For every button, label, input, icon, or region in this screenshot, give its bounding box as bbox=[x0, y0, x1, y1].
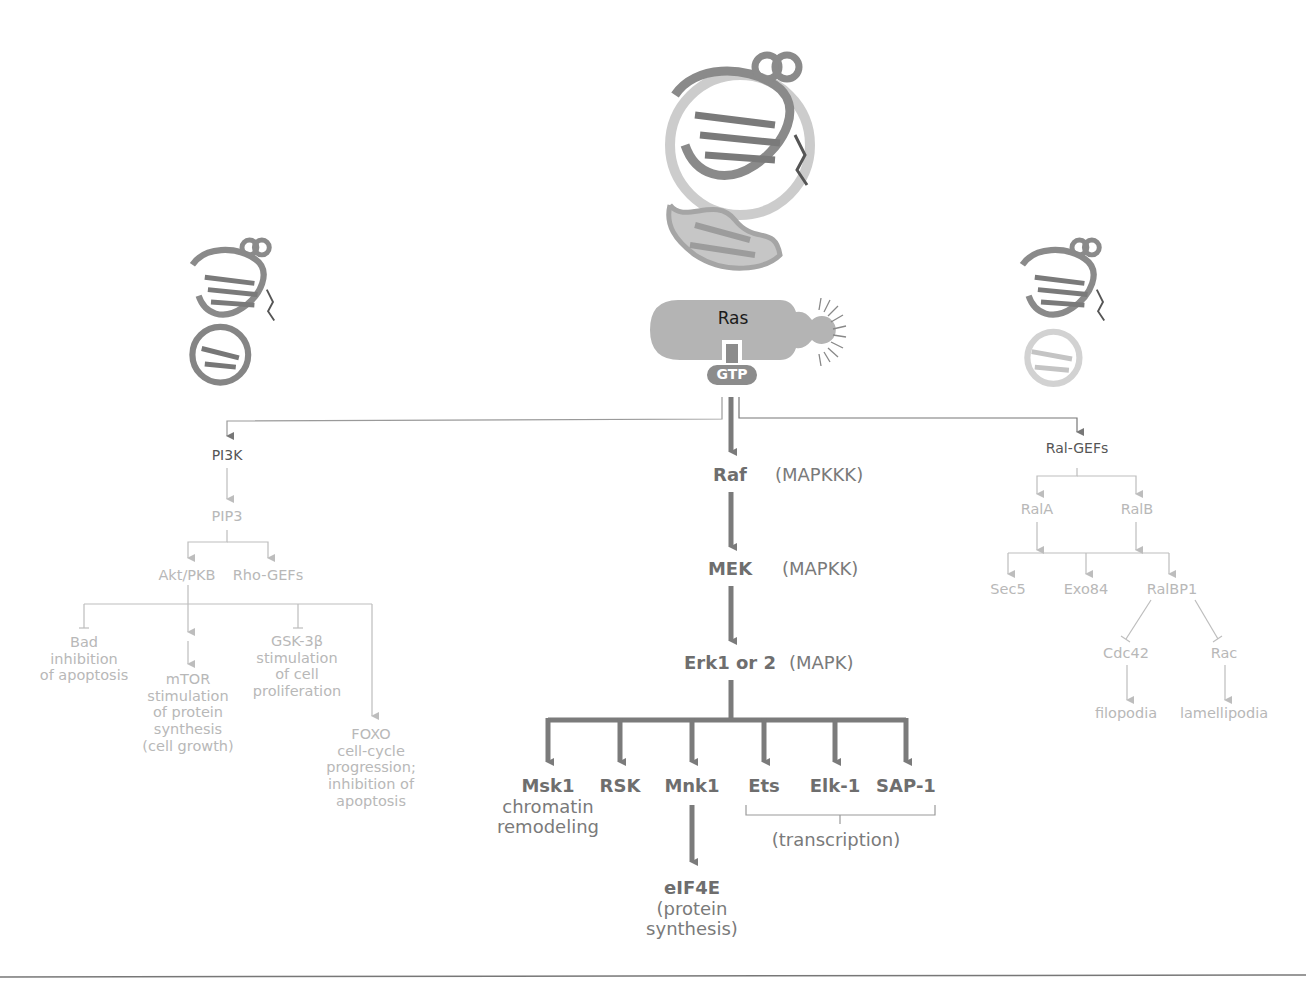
ralb-label: RalB bbox=[1121, 501, 1154, 518]
ralbp1-label: RalBP1 bbox=[1147, 581, 1198, 598]
mtor-label: mTOR bbox=[142, 671, 233, 688]
raf-label: Raf bbox=[713, 465, 747, 486]
mapk-label: (MAPK) bbox=[789, 653, 854, 674]
eif4e-effect-line: synthesis) bbox=[646, 919, 738, 940]
rho-gefs-label: Rho-GEFs bbox=[233, 567, 303, 584]
protein-ribbon-structure-icon bbox=[192, 240, 274, 383]
mtor-target: mTOR stimulation of protein synthesis (c… bbox=[142, 671, 233, 754]
bottom-rule bbox=[0, 975, 1306, 977]
mtor-effect-line: stimulation bbox=[142, 688, 233, 705]
bad-label: Bad bbox=[40, 634, 128, 651]
cdc42-label: Cdc42 bbox=[1103, 645, 1149, 662]
gtp-label: GTP bbox=[716, 366, 747, 382]
exo84-label: Exo84 bbox=[1064, 581, 1109, 598]
gsk3b-label: GSK-3β bbox=[253, 633, 341, 650]
bad-effect-line: inhibition bbox=[40, 651, 128, 668]
rala-label: RalA bbox=[1021, 501, 1054, 518]
diagram-graphics bbox=[0, 0, 1306, 984]
transcription-label: (transcription) bbox=[772, 830, 901, 851]
protein-ribbon-structure-icon bbox=[669, 55, 810, 268]
ras-side-connectors bbox=[227, 397, 1077, 436]
foxo-label: FOXO bbox=[326, 726, 416, 743]
foxo-effect-line: inhibition of bbox=[326, 776, 416, 793]
mtor-effect-line: of protein bbox=[142, 704, 233, 721]
bad-effect-line: of apoptosis bbox=[40, 667, 128, 684]
mek-label: MEK bbox=[708, 559, 752, 580]
msk1-effect-line: chromatin bbox=[497, 797, 599, 818]
mapkkk-label: (MAPKKK) bbox=[775, 465, 863, 486]
sec5-label: Sec5 bbox=[990, 581, 1025, 598]
gsk3b-target: GSK-3β stimulation of cell proliferation bbox=[253, 633, 341, 700]
rsk-label: RSK bbox=[600, 776, 641, 797]
ral-gefs-label: Ral-GEFs bbox=[1046, 440, 1109, 456]
protein-ribbon-structure-icon bbox=[1022, 240, 1104, 384]
ras-label: Ras bbox=[718, 308, 749, 328]
mnk1-label: Mnk1 bbox=[664, 776, 719, 797]
gsk3b-effect-line: stimulation bbox=[253, 650, 341, 667]
foxo-target: FOXO cell-cycle progression; inhibition … bbox=[326, 726, 416, 809]
sap1-label: SAP-1 bbox=[876, 776, 936, 797]
erk-label: Erk1 or 2 bbox=[684, 653, 776, 674]
elk1-label: Elk-1 bbox=[810, 776, 860, 797]
msk1-label: Msk1 bbox=[497, 776, 599, 797]
rac-label: Rac bbox=[1211, 645, 1238, 662]
foxo-effect-line: cell-cycle bbox=[326, 743, 416, 760]
foxo-effect-line: apoptosis bbox=[326, 793, 416, 810]
ets-label: Ets bbox=[748, 776, 780, 797]
msk1-effect-line: remodeling bbox=[497, 817, 599, 838]
akt-pkb-label: Akt/PKB bbox=[158, 567, 215, 584]
pi3k-label: PI3K bbox=[212, 447, 243, 463]
bad-target: Bad inhibition of apoptosis bbox=[40, 634, 128, 684]
ras-signaling-diagram: Ras GTP PI3K PIP3 Akt/PKB Rho-GEFs Bad i… bbox=[0, 0, 1306, 984]
transcription-bracket bbox=[746, 805, 935, 824]
eif4e-target: eIF4E (protein synthesis) bbox=[646, 878, 738, 940]
foxo-effect-line: progression; bbox=[326, 759, 416, 776]
gsk3b-effect-line: proliferation bbox=[253, 683, 341, 700]
mtor-effect-line: (cell growth) bbox=[142, 738, 233, 755]
eif4e-effect-line: (protein bbox=[646, 899, 738, 920]
pip3-label: PIP3 bbox=[212, 508, 243, 525]
mapkk-label: (MAPKK) bbox=[782, 559, 858, 580]
mtor-effect-line: synthesis bbox=[142, 721, 233, 738]
filopodia-label: filopodia bbox=[1095, 705, 1157, 722]
gsk3b-effect-line: of cell bbox=[253, 666, 341, 683]
msk1-target: Msk1 chromatin remodeling bbox=[497, 776, 599, 838]
lamellipodia-label: lamellipodia bbox=[1180, 705, 1268, 722]
eif4e-label: eIF4E bbox=[646, 878, 738, 899]
